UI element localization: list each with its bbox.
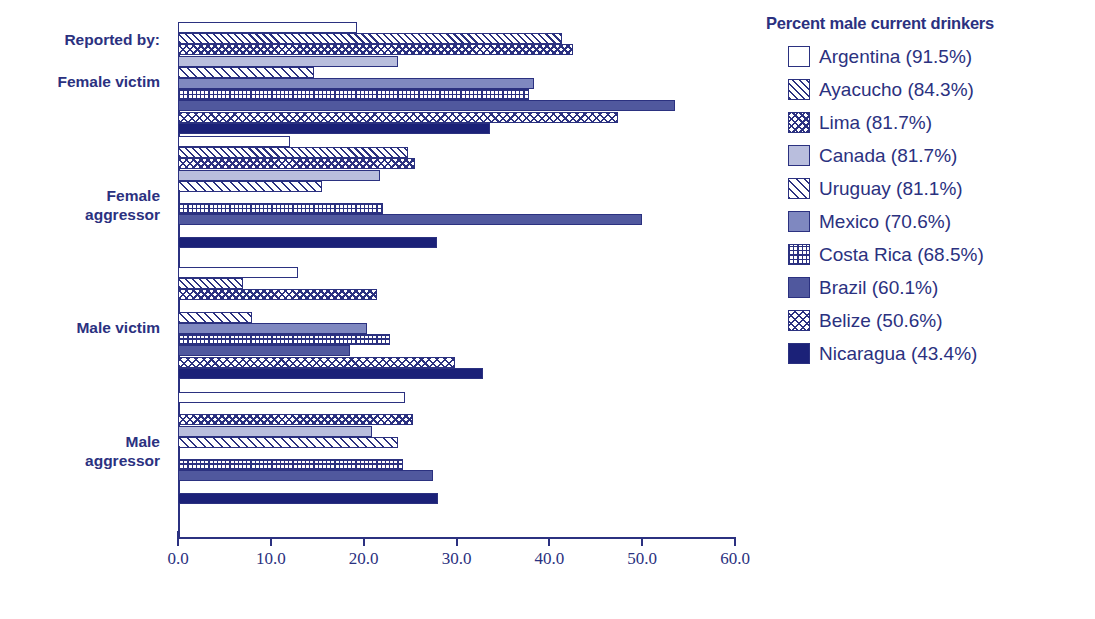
legend-swatch-lima-icon [788,112,810,133]
bar-uruguay-female-aggressor [178,181,322,192]
legend-label-canada: Canada (81.7%) [819,145,957,167]
bar-argentina-female-aggressor [178,136,290,147]
legend-swatch-argentina-icon [788,46,810,67]
legend-item-argentina[interactable]: Argentina (91.5%) [788,40,1090,73]
bar-brazil-female-aggressor [178,214,642,225]
bar-mexico-male-victim [178,323,367,334]
legend-item-canada[interactable]: Canada (81.7%) [788,139,1090,172]
legend-label-belize: Belize (50.6%) [819,310,943,332]
x-tick-label-60-0: 60.0 [720,549,750,569]
bar-uruguay-female-victim [178,67,314,78]
x-tick-60-0 [734,537,736,546]
bar-nicaragua-male-victim [178,368,483,379]
x-tick-label-20-0: 20.0 [349,549,379,569]
bar-brazil-male-victim [178,345,350,356]
legend-swatch-brazil-icon [788,277,810,298]
legend-item-brazil[interactable]: Brazil (60.1%) [788,271,1090,304]
legend-item-uruguay[interactable]: Uruguay (81.1%) [788,172,1090,205]
bar-brazil-female-victim [178,100,675,111]
bar-nicaragua-female-victim [178,123,490,134]
legend-swatch-canada-icon [788,145,810,166]
legend-label-lima: Lima (81.7%) [819,112,932,134]
x-tick-label-0-0: 0.0 [167,549,188,569]
legend-swatch-uruguay-icon [788,178,810,199]
x-tick-10-0 [270,537,272,546]
x-tick-40-0 [548,537,550,546]
category-axis-note: Reported by: [0,30,168,49]
plot-area [178,22,735,537]
bar-brazil-male-aggressor [178,470,433,481]
legend-label-uruguay: Uruguay (81.1%) [819,178,963,200]
bar-mexico-female-victim [178,78,534,89]
legend-label-ayacucho: Ayacucho (84.3%) [819,79,974,101]
legend-label-nicaragua: Nicaragua (43.4%) [819,343,977,365]
legend-swatch-nicaragua-icon [788,343,810,364]
bar-canada-male-aggressor [178,426,372,437]
x-tick-label-10-0: 10.0 [256,549,286,569]
bar-uruguay-male-victim [178,312,252,323]
bar-nicaragua-male-aggressor [178,493,438,504]
legend-swatch-mexico-icon [788,211,810,232]
x-tick-30-0 [456,537,458,546]
x-tick-20-0 [363,537,365,546]
bar-argentina-male-aggressor [178,392,405,403]
legend-item-nicaragua[interactable]: Nicaragua (43.4%) [788,337,1090,370]
bar-costarica-male-victim [178,334,390,345]
bar-costarica-female-victim [178,89,529,100]
legend-item-costarica[interactable]: Costa Rica (68.5%) [788,238,1090,271]
bar-costarica-female-aggressor [178,203,383,214]
legend-label-argentina: Argentina (91.5%) [819,46,972,68]
legend-item-lima[interactable]: Lima (81.7%) [788,106,1090,139]
bar-lima-male-aggressor [178,414,413,425]
bar-belize-female-victim [178,112,618,123]
bar-ayacucho-female-aggressor [178,147,408,158]
bar-canada-female-victim [178,56,398,67]
bar-lima-female-victim [178,44,573,55]
category-label-male-aggressor: Male aggressor [0,432,168,470]
category-label-male-victim: Male victim [0,318,168,337]
bar-ayacucho-male-victim [178,278,243,289]
bar-canada-female-aggressor [178,170,380,181]
legend-title: Percent male current drinkers [766,14,1090,33]
bar-belize-male-victim [178,357,455,368]
legend: Percent male current drinkers Argentina … [760,14,1090,370]
bar-uruguay-male-aggressor [178,437,398,448]
category-label-female-victim: Female victim [0,72,168,91]
legend-rows: Argentina (91.5%)Ayacucho (84.3%)Lima (8… [760,40,1090,370]
legend-label-brazil: Brazil (60.1%) [819,277,938,299]
bar-costarica-male-aggressor [178,459,403,470]
category-label-female-aggressor: Female aggressor [0,186,168,224]
legend-swatch-costarica-icon [788,244,810,265]
x-tick-label-40-0: 40.0 [534,549,564,569]
legend-item-ayacucho[interactable]: Ayacucho (84.3%) [788,73,1090,106]
x-tick-label-50-0: 50.0 [627,549,657,569]
bar-lima-male-victim [178,289,377,300]
bar-ayacucho-female-victim [178,33,562,44]
legend-swatch-ayacucho-icon [788,79,810,100]
bar-nicaragua-female-aggressor [178,237,437,248]
x-tick-label-30-0: 30.0 [442,549,472,569]
legend-swatch-belize-icon [788,310,810,331]
bar-lima-female-aggressor [178,158,415,169]
legend-label-costarica: Costa Rica (68.5%) [819,244,984,266]
legend-item-belize[interactable]: Belize (50.6%) [788,304,1090,337]
bar-argentina-male-victim [178,267,298,278]
legend-label-mexico: Mexico (70.6%) [819,211,951,233]
legend-item-mexico[interactable]: Mexico (70.6%) [788,205,1090,238]
x-tick-50-0 [641,537,643,546]
category-axis-labels: Reported by: Female victim Female aggres… [0,0,168,540]
bar-argentina-female-victim [178,22,357,33]
